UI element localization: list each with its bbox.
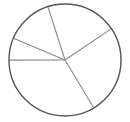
pie-chart-svg bbox=[0, 0, 130, 122]
pie-chart bbox=[0, 0, 130, 122]
